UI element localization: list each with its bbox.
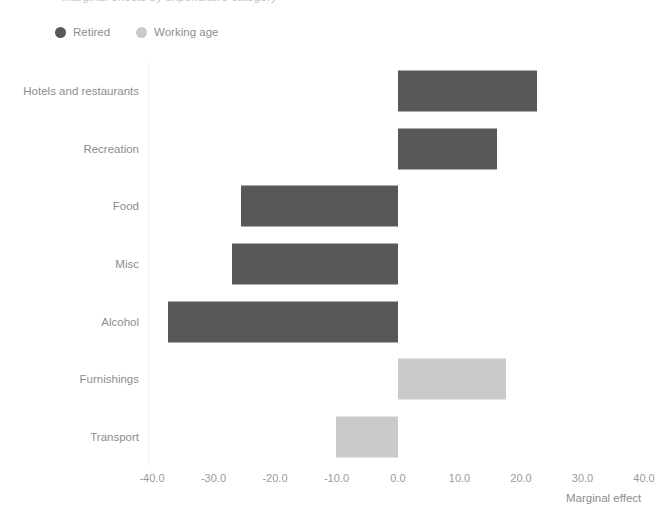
- bar-food[interactable]: [241, 186, 398, 227]
- category-label: Transport: [90, 431, 139, 443]
- x-tick-label: 0.0: [390, 472, 405, 484]
- category-label: Furnishings: [80, 373, 139, 385]
- bar-misc[interactable]: [232, 243, 398, 284]
- x-tick-label: 20.0: [510, 472, 531, 484]
- x-tick-label: -10.0: [324, 472, 349, 484]
- bar-alcohol[interactable]: [168, 301, 398, 342]
- bar-transport[interactable]: [336, 417, 398, 458]
- bar-furnishings[interactable]: [398, 359, 506, 400]
- bar-hotels-and-restaurants[interactable]: [398, 70, 537, 111]
- bar-recreation[interactable]: [398, 128, 497, 169]
- x-tick-label: -40.0: [139, 472, 164, 484]
- bar-row: Transport: [0, 408, 670, 466]
- bar-row: Hotels and restaurants: [0, 62, 670, 120]
- x-tick-label: 40.0: [633, 472, 654, 484]
- category-label: Recreation: [83, 143, 139, 155]
- x-tick-label: 10.0: [449, 472, 470, 484]
- category-label: Misc: [115, 258, 139, 270]
- x-tick-label: 30.0: [572, 472, 593, 484]
- x-axis-label: Marginal effect: [566, 492, 641, 504]
- category-label: Alcohol: [101, 316, 139, 328]
- x-tick-label: -30.0: [201, 472, 226, 484]
- x-axis-ticks: -40.0-30.0-20.0-10.00.010.020.030.040.0: [0, 472, 670, 488]
- chart-plot-area: Hotels and restaurantsRecreationFoodMisc…: [0, 0, 670, 532]
- x-tick-label: -20.0: [262, 472, 287, 484]
- category-label: Hotels and restaurants: [23, 85, 139, 97]
- bar-row: Misc: [0, 235, 670, 293]
- bar-row: Recreation: [0, 120, 670, 178]
- bar-row: Alcohol: [0, 293, 670, 351]
- bar-row: Furnishings: [0, 351, 670, 409]
- category-label: Food: [113, 200, 139, 212]
- bar-row: Food: [0, 177, 670, 235]
